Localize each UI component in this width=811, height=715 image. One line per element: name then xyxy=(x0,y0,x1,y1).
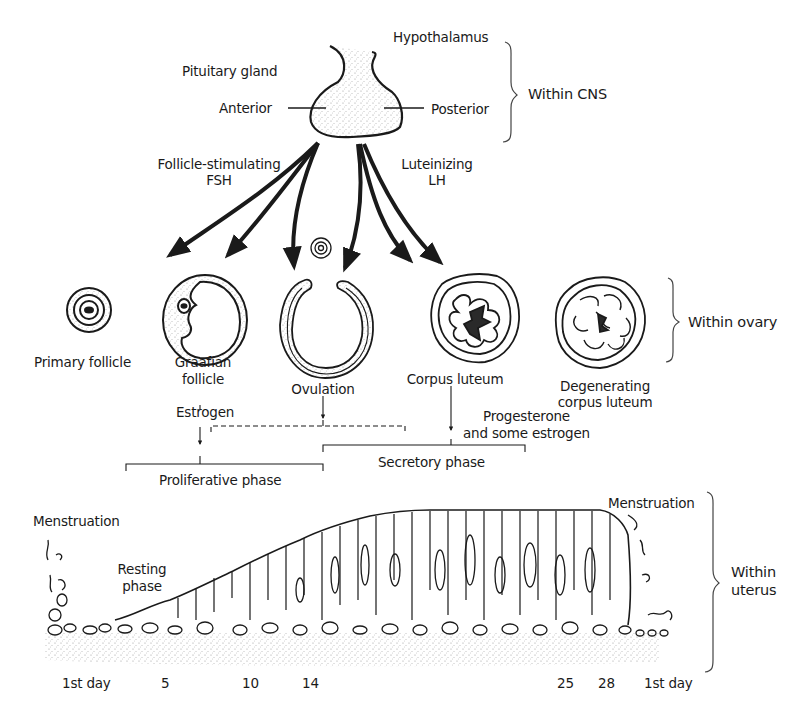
progesterone-label-line1: Progesterone xyxy=(483,408,570,424)
progesterone-label-line2: and some estrogen xyxy=(463,425,590,441)
degenerating-corpus-luteum-icon xyxy=(556,277,645,368)
degenerating-corpus-luteum-label-line1: Degenerating xyxy=(555,378,655,394)
day-label-25: 25 xyxy=(557,675,574,691)
ovulation-icon xyxy=(280,280,373,378)
within-cns-label: Within CNS xyxy=(528,86,607,102)
day-label-14: 14 xyxy=(302,675,319,691)
corpus-luteum-label: Corpus luteum xyxy=(400,371,510,387)
hypothalamus-label: Hypothalamus xyxy=(393,29,488,45)
within-ovary-label: Within ovary xyxy=(688,314,777,330)
degenerating-corpus-luteum-label-line2: corpus luteum xyxy=(555,394,655,410)
fsh-label-line1: Follicle-stimulating xyxy=(135,156,303,172)
pituitary-gland-icon xyxy=(288,46,424,137)
menstruation-start-label: Menstruation xyxy=(33,513,120,529)
day-label-1st: 1st day xyxy=(62,675,111,691)
ovum-icon xyxy=(311,238,331,258)
within-uterus-label-line1: Within xyxy=(731,564,776,580)
pituitary-gland-label: Pituitary gland xyxy=(182,63,277,79)
endometrium-icon xyxy=(115,510,630,625)
estrogen-label: Estrogen xyxy=(176,404,234,420)
day-label-10: 10 xyxy=(242,675,259,691)
uterus-base-layer xyxy=(45,632,660,666)
day-label-5: 5 xyxy=(161,675,169,691)
resting-phase-label-line1: Resting xyxy=(112,561,172,577)
resting-phase-label-line2: phase xyxy=(112,578,172,594)
graafian-follicle-label-line1: Graafian xyxy=(168,354,238,370)
posterior-label: Posterior xyxy=(431,101,489,117)
uterus-bracket xyxy=(705,492,719,672)
fsh-label-line2: FSH xyxy=(135,172,303,188)
corpus-luteum-icon xyxy=(431,274,519,362)
day-label-1st-next: 1st day xyxy=(644,675,693,691)
ovulation-label: Ovulation xyxy=(288,381,358,397)
lh-label-line1: Luteinizing xyxy=(398,156,476,172)
anterior-label: Anterior xyxy=(219,100,272,116)
primary-follicle-icon xyxy=(67,288,111,332)
proliferative-phase-label: Proliferative phase xyxy=(159,472,281,488)
day-label-28: 28 xyxy=(598,675,615,691)
graafian-follicle-icon xyxy=(163,275,247,365)
cns-bracket xyxy=(503,42,517,142)
lh-label-line2: LH xyxy=(398,172,476,188)
primary-follicle-label: Primary follicle xyxy=(34,354,131,370)
ovary-bracket xyxy=(666,278,679,362)
secretory-phase-label: Secretory phase xyxy=(378,454,485,470)
within-uterus-label-line2: uterus xyxy=(731,582,776,598)
graafian-follicle-label-line2: follicle xyxy=(168,371,238,387)
menstruation-end-label: Menstruation xyxy=(608,495,695,511)
